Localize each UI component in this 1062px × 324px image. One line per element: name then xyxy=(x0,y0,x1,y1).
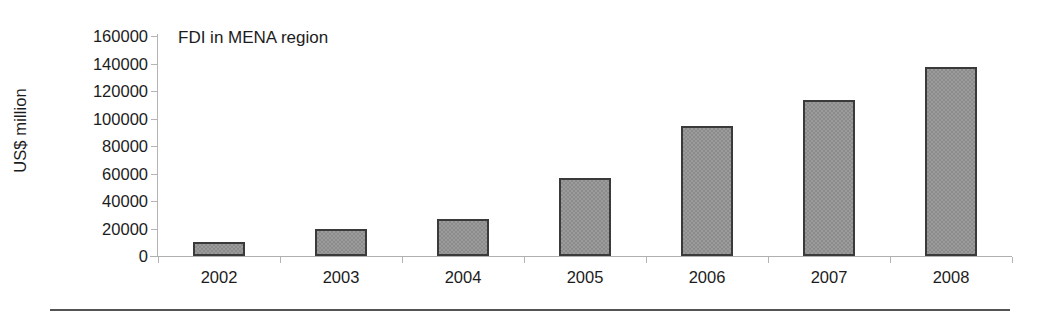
y-axis-title-text: US$ million xyxy=(11,88,30,173)
y-axis-tick-label: 60000 xyxy=(36,165,148,182)
y-axis-tick-label: 20000 xyxy=(36,220,148,237)
x-axis-tick-mark xyxy=(280,257,281,263)
bar-2004 xyxy=(437,219,489,256)
x-axis-category-labels: 2002200320042005200620072008 xyxy=(158,268,1012,292)
y-axis-title: US$ million xyxy=(0,0,40,260)
x-axis-label-2003: 2003 xyxy=(280,268,402,287)
y-axis-tick-label: 100000 xyxy=(36,110,148,127)
x-axis-tick-marks xyxy=(0,257,1062,265)
bar-2005 xyxy=(559,178,611,256)
x-axis-tick-mark xyxy=(646,257,647,263)
y-axis-tick-label: 120000 xyxy=(36,83,148,100)
y-axis-tick-label: 40000 xyxy=(36,193,148,210)
x-axis-label-2007: 2007 xyxy=(768,268,890,287)
x-axis-tick-mark xyxy=(402,257,403,263)
chart-title: FDI in MENA region xyxy=(178,28,328,48)
x-axis-tick-mark xyxy=(158,257,159,263)
x-axis-label-2004: 2004 xyxy=(402,268,524,287)
bar-2006 xyxy=(681,126,733,256)
bar-2007 xyxy=(803,100,855,256)
bar-2003 xyxy=(315,229,367,256)
bar-series xyxy=(158,36,1012,256)
y-axis-tick-label: 80000 xyxy=(36,138,148,155)
x-axis-label-2006: 2006 xyxy=(646,268,768,287)
bottom-divider-rule xyxy=(50,309,1010,311)
x-axis-tick-mark xyxy=(768,257,769,263)
bar-2008 xyxy=(925,67,977,256)
x-axis-tick-mark xyxy=(524,257,525,263)
x-axis-label-2008: 2008 xyxy=(890,268,1012,287)
x-axis-tick-mark xyxy=(1012,257,1013,263)
chart-figure: US$ million 0200004000060000800001000001… xyxy=(0,0,1062,324)
y-axis-tick-labels: 0200004000060000800001000001200001400001… xyxy=(36,0,148,324)
y-axis-tick-label: 140000 xyxy=(36,55,148,72)
x-axis-tick-mark xyxy=(890,257,891,263)
bar-2002 xyxy=(193,242,245,256)
y-axis-tick-label: 160000 xyxy=(36,28,148,45)
x-axis-label-2005: 2005 xyxy=(524,268,646,287)
plot-area xyxy=(158,36,1012,256)
x-axis-label-2002: 2002 xyxy=(158,268,280,287)
